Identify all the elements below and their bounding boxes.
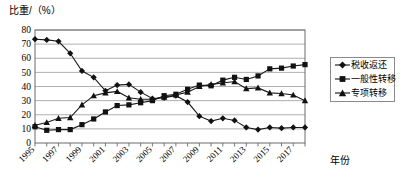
data-point-square xyxy=(56,127,61,132)
data-point-diamond xyxy=(243,124,249,130)
data-point-square xyxy=(126,102,131,107)
data-point-square xyxy=(291,63,296,68)
x-axis-tick-label: 2007 xyxy=(157,144,177,164)
y-axis-tick-label: 80 xyxy=(22,25,32,35)
data-point-square xyxy=(68,127,73,132)
y-axis-tick-label: 10 xyxy=(22,124,32,134)
y-axis-tick-label: 50 xyxy=(22,68,32,78)
x-axis-title: 年份 xyxy=(330,152,350,167)
x-axis-tick-label: 2015 xyxy=(251,144,271,164)
x-axis-tick-label: 2011 xyxy=(205,144,225,164)
x-axis-tick-label: 1995 xyxy=(17,144,37,164)
data-point-square xyxy=(302,62,307,67)
series-line xyxy=(35,39,305,129)
chart-container: 比重/（%） 年份 010203040506070801995199719992… xyxy=(0,0,410,195)
data-point-square xyxy=(91,116,96,121)
data-point-diamond xyxy=(255,126,261,132)
x-axis-tick-label: 2009 xyxy=(181,144,201,164)
data-point-diamond xyxy=(220,115,226,121)
data-point-diamond xyxy=(290,124,296,130)
data-point-square xyxy=(244,77,249,82)
data-point-diamond xyxy=(231,117,237,123)
data-point-square xyxy=(279,66,284,71)
square-marker-icon xyxy=(334,73,351,85)
data-point-diamond xyxy=(44,37,50,43)
data-point-diamond xyxy=(114,82,120,88)
x-axis-tick-label: 2003 xyxy=(111,144,131,164)
diamond-marker-icon xyxy=(334,59,351,71)
series-0 xyxy=(32,36,308,133)
x-axis-tick-label: 2013 xyxy=(228,144,248,164)
data-point-triangle xyxy=(114,88,120,94)
series-line xyxy=(35,65,305,131)
y-axis-tick-label: 70 xyxy=(22,39,32,49)
legend-label-1: 一般性转移 xyxy=(351,73,396,85)
data-point-diamond xyxy=(138,89,144,95)
y-axis-title: 比重/（%） xyxy=(9,2,61,17)
data-point-square xyxy=(255,73,260,78)
data-point-diamond xyxy=(302,124,308,130)
legend-item-1: 一般性转移 xyxy=(331,72,394,86)
data-point-diamond xyxy=(32,36,38,42)
data-point-diamond xyxy=(267,124,273,130)
x-axis-tick-label: 1999 xyxy=(64,144,84,164)
chart-legend: 税收返还 一般性转移 专项转移 xyxy=(330,57,395,102)
x-axis-tick-label: 2017 xyxy=(275,144,295,164)
legend-item-2: 专项转移 xyxy=(331,86,394,100)
data-point-square xyxy=(267,66,272,71)
x-axis-tick-label: 1997 xyxy=(40,144,60,164)
data-point-triangle xyxy=(126,95,132,101)
x-axis-tick-label: 2005 xyxy=(134,144,154,164)
y-axis-tick-label: 40 xyxy=(22,82,32,92)
series-2 xyxy=(32,78,308,128)
data-point-square xyxy=(44,128,49,133)
y-axis-tick-label: 20 xyxy=(22,110,32,120)
data-point-square xyxy=(115,103,120,108)
series-line xyxy=(35,82,305,126)
legend-label-0: 税收返还 xyxy=(351,59,387,71)
legend-item-0: 税收返还 xyxy=(331,58,394,72)
data-point-diamond xyxy=(278,125,284,131)
data-point-square xyxy=(103,109,108,114)
data-point-diamond xyxy=(208,118,214,124)
data-point-square xyxy=(79,122,84,127)
data-point-diamond xyxy=(79,68,85,74)
y-axis-tick-label: 30 xyxy=(22,96,32,106)
y-axis-tick-label: 60 xyxy=(22,53,32,63)
legend-label-2: 专项转移 xyxy=(351,87,387,99)
triangle-marker-icon xyxy=(334,87,351,99)
x-axis-tick-label: 2001 xyxy=(87,144,107,164)
